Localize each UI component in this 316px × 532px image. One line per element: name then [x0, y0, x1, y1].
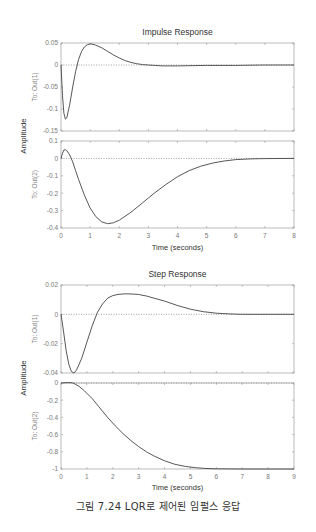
y-tick-label: -0.05: [43, 83, 58, 90]
axes-box: [61, 43, 294, 131]
axes-box: [61, 285, 294, 373]
x-axis-label: Time (seconds): [152, 483, 204, 492]
x-tick-label: 3: [137, 473, 141, 480]
response-curve: [61, 150, 294, 224]
y-tick-label: -0.04: [43, 369, 58, 376]
y-tick-label: -0.8: [47, 448, 59, 455]
output-label: To: Out(1): [31, 315, 39, 344]
amplitude-label: Amplitude: [19, 118, 28, 154]
y-tick-label: -0.6: [47, 431, 59, 438]
x-tick-label: 8: [292, 232, 296, 239]
y-tick-label: 0.05: [45, 39, 58, 46]
x-tick-label: 0: [59, 232, 63, 239]
y-tick-label: -0.2: [47, 190, 59, 197]
y-tick-label: 0.1: [49, 137, 58, 144]
y-tick-label: -0.2: [47, 397, 59, 404]
x-tick-label: 2: [117, 232, 121, 239]
output-label: To: Out(1): [31, 73, 39, 102]
axes-box: [61, 383, 294, 469]
x-tick-label: 7: [240, 473, 244, 480]
amplitude-label: Amplitude: [19, 360, 28, 396]
response-curve: [61, 383, 294, 469]
y-tick-label: -0.4: [47, 414, 59, 421]
x-tick-label: 4: [163, 473, 167, 480]
x-tick-label: 2: [111, 473, 115, 480]
y-tick-label: -1: [52, 465, 58, 472]
y-tick-label: -0.4: [47, 224, 59, 231]
x-tick-label: 6: [215, 473, 219, 480]
y-tick-label: -0.3: [47, 207, 59, 214]
x-tick-label: 4: [176, 232, 180, 239]
x-tick-label: 5: [189, 473, 193, 480]
y-tick-label: 0: [54, 311, 58, 318]
lqr-response-figure: Impulse Response0.050-0.05-0.1-0.15To: O…: [0, 0, 316, 532]
chart-title: Impulse Response: [142, 27, 213, 37]
y-tick-label: -0.15: [43, 127, 58, 134]
response-curve: [61, 44, 294, 119]
y-tick-label: 0: [54, 61, 58, 68]
chart-title: Step Response: [148, 269, 206, 279]
x-tick-label: 3: [147, 232, 151, 239]
x-tick-label: 7: [263, 232, 267, 239]
x-axis-label: Time (seconds): [152, 243, 204, 252]
x-tick-label: 0: [59, 473, 63, 480]
x-tick-label: 8: [266, 473, 270, 480]
y-tick-label: -0.02: [43, 340, 58, 347]
y-tick-label: -0.1: [47, 105, 59, 112]
response-curve: [61, 294, 294, 373]
output-label: To: Out(2): [31, 170, 39, 199]
x-tick-label: 1: [85, 473, 89, 480]
y-tick-label: 0: [54, 379, 58, 386]
y-tick-label: -0.1: [47, 172, 59, 179]
x-tick-label: 9: [292, 473, 296, 480]
axes-box: [61, 141, 294, 228]
x-tick-label: 5: [205, 232, 209, 239]
y-tick-label: 0.02: [45, 281, 58, 288]
figure-caption: 그림 7.24 LQR로 제어된 임펄스 응답: [0, 498, 316, 513]
x-tick-label: 1: [88, 232, 92, 239]
x-tick-label: 6: [234, 232, 238, 239]
y-tick-label: 0: [54, 155, 58, 162]
output-label: To: Out(2): [31, 412, 39, 441]
